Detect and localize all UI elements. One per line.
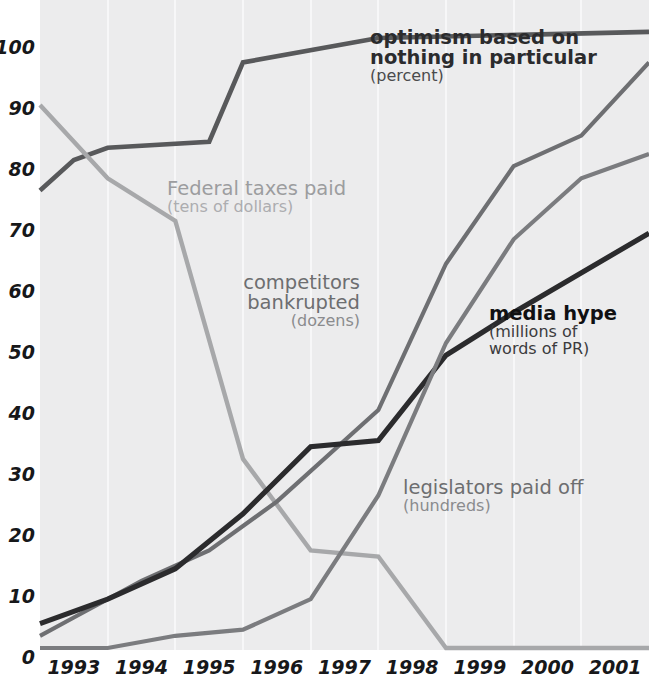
- annotation-legislators: legislators paid off (hundreds): [403, 478, 583, 515]
- annotation-optimism-line2: nothing in particular: [370, 48, 597, 68]
- annotation-federal-taxes-line1: Federal taxes paid: [167, 179, 346, 199]
- annotation-competitors: competitors bankrupted (dozens): [168, 273, 360, 330]
- annotation-media-hype: media hype (millions of words of PR): [489, 304, 617, 357]
- annotation-competitors-units: (dozens): [168, 313, 360, 329]
- annotation-optimism-line1: optimism based on: [370, 28, 597, 48]
- annotation-optimism-units: (percent): [370, 68, 597, 84]
- annotation-competitors-line2: bankrupted: [168, 293, 360, 313]
- annotation-media-hype-units-line2: words of PR): [489, 341, 617, 357]
- annotation-legislators-units: (hundreds): [403, 498, 583, 514]
- annotation-competitors-line1: competitors: [168, 273, 360, 293]
- annotation-legislators-line1: legislators paid off: [403, 478, 583, 498]
- annotation-optimism: optimism based on nothing in particular …: [370, 28, 597, 85]
- annotation-federal-taxes-units: (tens of dollars): [167, 199, 346, 215]
- series-line-legislators-paid-off: [40, 154, 649, 648]
- annotation-federal-taxes: Federal taxes paid (tens of dollars): [167, 179, 346, 216]
- annotation-media-hype-line1: media hype: [489, 304, 617, 324]
- line-chart: 1009080706050403020100 19931994199519961…: [0, 0, 649, 684]
